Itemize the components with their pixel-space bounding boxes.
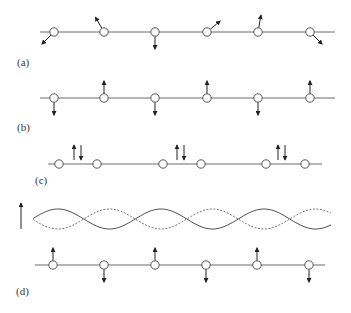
atom-circle (151, 94, 159, 102)
spin-arrow-icon (95, 17, 102, 28)
spin-chain-diagram: (a) (b) (c) (d) (0, 0, 351, 313)
panel-label-b: (b) (17, 121, 30, 133)
atom-circle (305, 261, 313, 269)
atom-circle (50, 28, 58, 36)
diagram-svg (0, 0, 351, 313)
panel-b (40, 81, 335, 115)
atom-circle (202, 261, 210, 269)
atom-circle (55, 160, 63, 168)
panel-label-c: (c) (35, 174, 47, 186)
spin-wave-dashed (33, 209, 331, 229)
atom-circle (100, 261, 108, 269)
panel-label-a: (a) (17, 56, 29, 68)
panel-a (40, 15, 335, 49)
atom-circle (100, 94, 108, 102)
atom-circle (306, 94, 314, 102)
atom-circle (262, 160, 270, 168)
atom-circle (49, 261, 57, 269)
atom-circle (93, 160, 101, 168)
atom-circle (301, 160, 309, 168)
atom-circle (100, 28, 108, 36)
panel-c (48, 145, 322, 168)
spin-arrow-icon (42, 35, 51, 44)
atom-circle (151, 28, 159, 36)
atom-circle (159, 160, 167, 168)
panel-d (21, 203, 331, 282)
spin-arrow-icon (313, 35, 322, 44)
atom-circle (254, 94, 262, 102)
spin-wave-solid (33, 209, 331, 229)
atom-circle (50, 94, 58, 102)
spin-arrow-icon (259, 15, 261, 28)
panel-label-d: (d) (16, 285, 29, 297)
atom-circle (254, 28, 262, 36)
spin-arrow-icon (210, 21, 220, 29)
atom-circle (203, 94, 211, 102)
atom-circle (306, 28, 314, 36)
atom-circle (203, 28, 211, 36)
atom-circle (151, 261, 159, 269)
atom-circle (253, 261, 261, 269)
atom-circle (197, 160, 205, 168)
